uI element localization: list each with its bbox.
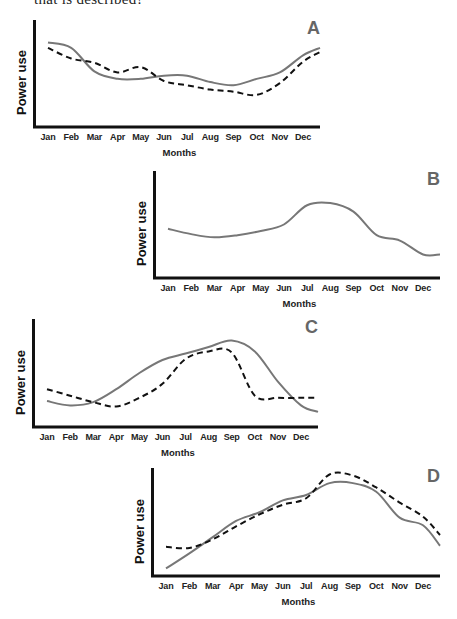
x-tick-label: Aug	[321, 581, 338, 591]
x-tick-label: Sep	[346, 283, 362, 293]
series-dashed-line	[166, 473, 440, 549]
chart-c: CPower useJanFebMarAprMayJunJulAugSepOct…	[32, 319, 318, 427]
x-tick-label: Sep	[345, 581, 361, 591]
x-tick-label: Aug	[322, 283, 339, 293]
x-tick-label: Mar	[87, 132, 102, 142]
x-tick-label: Jul	[179, 432, 191, 442]
x-tick-label: Feb	[182, 581, 197, 591]
x-tick-label: Jan	[159, 581, 174, 591]
x-tick-label: May	[132, 132, 149, 142]
x-tick-label: Jun	[156, 132, 171, 142]
chart-plot	[151, 468, 444, 580]
chart-axes	[155, 171, 441, 278]
x-tick-label: Feb	[62, 432, 77, 442]
x-tick-label: Apr	[229, 581, 244, 591]
x-tick-label: Oct	[369, 581, 383, 591]
x-tick-label: Mar	[85, 432, 100, 442]
x-tick-label: Nov	[270, 432, 286, 442]
y-axis-label: Power use	[14, 50, 29, 115]
x-tick-label: Jul	[181, 132, 193, 142]
x-tick-label: Aug	[202, 132, 219, 142]
chart-a: APower useJanFebMarAprMayJunJulAugSepOct…	[33, 20, 320, 127]
x-tick-label: Feb	[183, 283, 198, 293]
x-tick-label: Oct	[248, 432, 262, 442]
x-tick-label: Feb	[63, 132, 78, 142]
x-tick-label: Jul	[301, 283, 313, 293]
x-tick-label: May	[131, 432, 148, 442]
series-solid-line	[166, 482, 440, 569]
x-tick-label: Aug	[200, 432, 217, 442]
x-tick-label: Nov	[391, 581, 407, 591]
chart-plot	[153, 171, 444, 282]
series-solid-line	[168, 202, 440, 255]
chart-b: BPower useJanFebMarAprMayJunJulAugSepOct…	[153, 171, 440, 278]
x-tick-label: Jan	[161, 283, 176, 293]
series-dashed-line	[47, 349, 318, 407]
x-tick-label: Dec	[415, 581, 431, 591]
x-tick-label: Apr	[110, 132, 125, 142]
x-tick-label: May	[252, 283, 269, 293]
x-tick-label: Sep	[226, 132, 242, 142]
y-axis-label: Power use	[13, 350, 28, 415]
x-tick-label: Jun	[155, 432, 170, 442]
chart-panel-letter: B	[427, 169, 440, 190]
x-tick-label: Oct	[249, 132, 263, 142]
x-tick-label: Oct	[369, 283, 383, 293]
x-tick-label: Nov	[272, 132, 288, 142]
x-tick-label: Apr	[230, 283, 245, 293]
x-tick-label: Mar	[205, 581, 220, 591]
x-tick-label: Nov	[392, 283, 408, 293]
x-tick-label: Dec	[415, 283, 431, 293]
question-text: that is described?	[34, 0, 144, 8]
x-axis-label: Months	[163, 147, 197, 158]
series-dashed-line	[48, 48, 320, 95]
x-tick-label: Dec	[295, 132, 311, 142]
x-tick-label: Jan	[41, 132, 56, 142]
chart-d: DPower useJanFebMarAprMayJunJulAugSepOct…	[151, 468, 440, 576]
x-tick-label: Jun	[275, 581, 290, 591]
chart-plot	[32, 319, 322, 431]
chart-axes	[34, 319, 319, 427]
chart-plot	[33, 20, 324, 131]
x-axis-label: Months	[282, 596, 316, 607]
chart-panel-letter: A	[307, 18, 320, 39]
y-axis-label: Power use	[132, 499, 147, 564]
chart-panel-letter: D	[427, 466, 440, 487]
chart-axes	[153, 468, 441, 576]
x-tick-label: Jan	[40, 432, 55, 442]
x-tick-label: Sep	[224, 432, 240, 442]
series-solid-line	[48, 42, 320, 85]
y-axis-label: Power use	[134, 201, 149, 266]
x-tick-label: May	[251, 581, 268, 591]
x-tick-label: Jul	[300, 581, 312, 591]
x-axis-label: Months	[161, 447, 195, 458]
x-axis-label: Months	[283, 298, 317, 309]
x-tick-label: Apr	[109, 432, 124, 442]
x-tick-label: Dec	[293, 432, 309, 442]
x-tick-label: Jun	[276, 283, 291, 293]
chart-panel-letter: C	[305, 317, 318, 338]
x-tick-label: Mar	[207, 283, 222, 293]
